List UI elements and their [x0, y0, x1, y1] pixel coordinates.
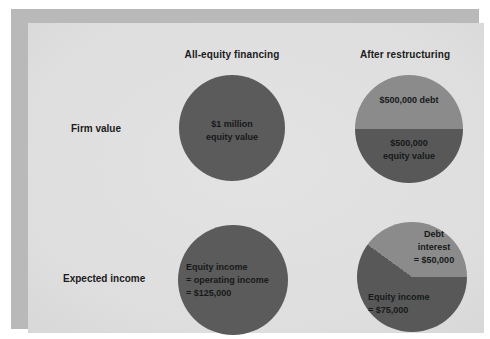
- column-heading-after-restructuring: After restructuring: [340, 49, 470, 60]
- pie-label-all-equity-firm-value: $1 million equity value: [188, 118, 276, 144]
- pie-label-restructured-debt: $500,000 debt: [363, 94, 455, 107]
- pie-label-all-equity-expected-income: Equity income = operating income = $125,…: [186, 261, 286, 300]
- pie-label-restructured-debt-interest: Debt interest = $50,000: [402, 228, 466, 267]
- pie-restructured-firm-value: [355, 75, 463, 183]
- row-label-firm-value: Firm value: [71, 123, 121, 134]
- column-heading-all-equity-financing: All-equity financing: [167, 49, 297, 60]
- pie-label-restructured-equity-value: $500,000 equity value: [366, 137, 452, 163]
- figure-frame: All-equity financing After restructuring…: [11, 9, 479, 329]
- row-label-expected-income: Expected income: [63, 273, 145, 284]
- pie-label-restructured-equity-income: Equity income = $75,000: [368, 291, 460, 317]
- figure-panel: All-equity financing After restructuring…: [28, 23, 484, 333]
- figure-root: All-equity financing After restructuring…: [0, 0, 490, 339]
